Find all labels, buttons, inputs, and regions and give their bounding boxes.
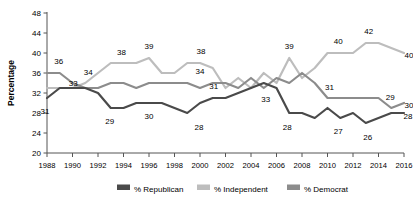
y-tick-label: 36 (32, 69, 41, 78)
y-axis-title: Percentage (6, 60, 16, 106)
y-tick-label: 20 (32, 149, 41, 158)
y-tick-label: 44 (32, 29, 41, 38)
data-label: 27 (334, 127, 343, 136)
legend-label: % Democrat (304, 185, 349, 194)
x-tick-label: 1988 (39, 161, 56, 170)
party-identification-line-chart: 2024283236404448Percentage19881990199219… (0, 0, 413, 206)
legend-swatch (287, 185, 300, 191)
x-tick-label: 2000 (192, 161, 209, 170)
x-tick-label: 1990 (64, 161, 81, 170)
data-label: 31 (325, 83, 334, 92)
data-label: 34 (84, 68, 93, 77)
x-tick-label: 2016 (396, 161, 413, 170)
chart-canvas: 2024283236404448Percentage19881990199219… (0, 0, 413, 206)
data-label: 30 (145, 112, 154, 121)
data-label: 28 (283, 123, 292, 132)
series-line-democrat (47, 73, 404, 108)
y-tick-label: 48 (32, 9, 41, 18)
legend-swatch (197, 185, 210, 191)
x-tick-label: 2010 (319, 161, 336, 170)
x-tick-label: 2012 (345, 161, 362, 170)
data-label: 34 (196, 67, 205, 76)
data-label: 39 (285, 42, 294, 51)
y-tick-label: 40 (32, 49, 41, 58)
x-tick-label: 1998 (166, 161, 183, 170)
x-tick-label: 1992 (90, 161, 107, 170)
x-tick-label: 2006 (268, 161, 285, 170)
chart-legend: % Republican% Independent% Democrat (117, 185, 349, 194)
data-label: 29 (386, 93, 395, 102)
data-label: 38 (117, 48, 126, 57)
data-label: 38 (197, 47, 206, 56)
data-label: 33 (261, 95, 270, 104)
data-label: 29 (105, 117, 114, 126)
x-tick-label: 2002 (217, 161, 234, 170)
data-label: 36 (54, 57, 63, 66)
data-label: 30 (405, 101, 413, 110)
x-tick-label: 2008 (294, 161, 311, 170)
data-label: 31 (41, 107, 50, 116)
data-label: 26 (363, 133, 372, 142)
data-label: 28 (404, 112, 413, 121)
y-tick-label: 32 (32, 89, 41, 98)
legend-swatch (117, 185, 130, 191)
x-tick-label: 2004 (243, 161, 260, 170)
x-tick-label: 1994 (115, 161, 132, 170)
data-label: 40 (405, 51, 413, 60)
data-label: 31 (209, 82, 218, 91)
data-label: 28 (195, 123, 204, 132)
data-label: 33 (69, 79, 78, 88)
legend-label: % Independent (214, 185, 269, 194)
data-label: 40 (334, 37, 343, 46)
series-line-independent (47, 43, 404, 88)
data-label: 39 (145, 42, 154, 51)
legend-label: % Republican (134, 185, 183, 194)
x-tick-label: 1996 (141, 161, 158, 170)
data-label: 42 (364, 27, 373, 36)
y-tick-label: 24 (32, 129, 41, 138)
x-tick-label: 2014 (370, 161, 387, 170)
